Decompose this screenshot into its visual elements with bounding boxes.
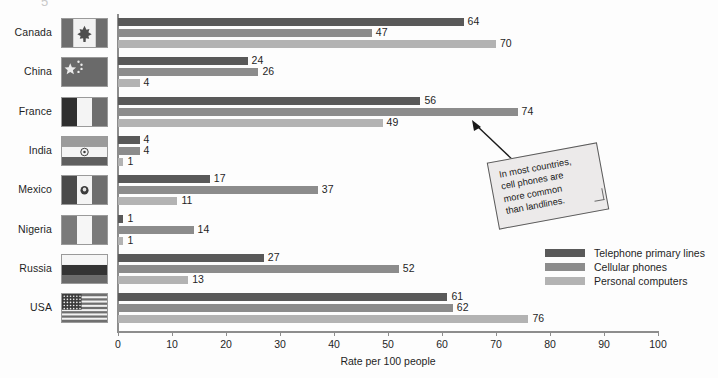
x-tick-70 bbox=[496, 331, 497, 336]
x-tick-label-80: 80 bbox=[544, 338, 556, 350]
bar-value-nigeria-cellular: 14 bbox=[198, 225, 210, 233]
x-tick-60 bbox=[442, 331, 443, 336]
usa-flag bbox=[61, 293, 108, 323]
x-tick-label-60: 60 bbox=[436, 338, 448, 350]
bar-usa-computers bbox=[118, 315, 528, 323]
bar-value-china-computers: 4 bbox=[144, 78, 150, 86]
x-tick-label-70: 70 bbox=[490, 338, 502, 350]
legend-label-cellular: Cellular phones bbox=[594, 261, 667, 273]
bar-russia-telephone bbox=[118, 254, 264, 262]
bar-value-usa-telephone: 61 bbox=[451, 292, 463, 300]
bar-mexico-telephone bbox=[118, 175, 210, 183]
bar-mexico-computers bbox=[118, 197, 177, 205]
legend-label-telephone: Telephone primary lines bbox=[594, 247, 705, 259]
bar-value-canada-telephone: 64 bbox=[468, 17, 480, 25]
china-flag bbox=[61, 57, 108, 87]
canada-flag-image bbox=[62, 19, 107, 47]
legend-swatch-cellular bbox=[545, 263, 585, 271]
x-tick-40 bbox=[334, 331, 335, 336]
bar-china-cellular bbox=[118, 68, 258, 76]
bar-value-mexico-telephone: 17 bbox=[214, 174, 226, 182]
france-flag-image bbox=[62, 98, 107, 126]
bar-france-telephone bbox=[118, 97, 420, 105]
bar-value-china-telephone: 24 bbox=[252, 56, 264, 64]
bar-france-computers bbox=[118, 119, 383, 127]
india-flag-image bbox=[62, 137, 107, 165]
bar-mexico-cellular bbox=[118, 186, 318, 194]
x-tick-30 bbox=[280, 331, 281, 336]
legend-label-computers: Personal computers bbox=[594, 275, 687, 287]
x-tick-label-50: 50 bbox=[382, 338, 394, 350]
canada-flag bbox=[61, 18, 108, 48]
bar-france-cellular bbox=[118, 108, 518, 116]
x-tick-label-20: 20 bbox=[220, 338, 232, 350]
bar-canada-telephone bbox=[118, 18, 464, 26]
bar-value-russia-computers: 13 bbox=[192, 275, 204, 283]
bar-value-china-cellular: 26 bbox=[262, 67, 274, 75]
legend-item-cellular: Cellular phones bbox=[545, 260, 705, 273]
x-tick-20 bbox=[226, 331, 227, 336]
bar-china-computers bbox=[118, 79, 140, 87]
country-label-france: France bbox=[0, 105, 52, 117]
x-tick-50 bbox=[388, 331, 389, 336]
bar-nigeria-cellular bbox=[118, 226, 194, 234]
legend-swatch-computers bbox=[545, 277, 585, 285]
bar-usa-telephone bbox=[118, 293, 447, 301]
bar-value-usa-computers: 76 bbox=[532, 314, 544, 322]
country-label-russia: Russia bbox=[0, 262, 52, 274]
x-tick-label-10: 10 bbox=[166, 338, 178, 350]
x-tick-0 bbox=[118, 331, 119, 336]
bar-india-cellular bbox=[118, 147, 140, 155]
x-tick-label-40: 40 bbox=[328, 338, 340, 350]
x-tick-80 bbox=[550, 331, 551, 336]
country-label-india: India bbox=[0, 144, 52, 156]
bar-value-canada-computers: 70 bbox=[500, 39, 512, 47]
bar-usa-cellular bbox=[118, 304, 453, 312]
country-label-china: China bbox=[0, 65, 52, 77]
x-tick-label-30: 30 bbox=[274, 338, 286, 350]
callout-note: In most countries, cell phones are more … bbox=[487, 142, 610, 229]
bar-value-india-cellular: 4 bbox=[144, 146, 150, 154]
legend-item-telephone: Telephone primary lines bbox=[545, 246, 705, 259]
x-axis-title: Rate per 100 people bbox=[340, 355, 435, 367]
bar-value-mexico-computers: 11 bbox=[181, 196, 192, 204]
legend: Telephone primary lines Cellular phones … bbox=[545, 246, 705, 288]
x-tick-label-0: 0 bbox=[115, 338, 121, 350]
bar-china-telephone bbox=[118, 57, 248, 65]
bar-india-computers bbox=[118, 158, 123, 166]
usa-flag-image bbox=[62, 294, 107, 322]
country-label-nigeria: Nigeria bbox=[0, 223, 52, 235]
x-tick-label-90: 90 bbox=[598, 338, 610, 350]
france-flag bbox=[61, 97, 108, 127]
legend-item-computers: Personal computers bbox=[545, 274, 705, 287]
x-tick-label-100: 100 bbox=[649, 338, 667, 350]
cropped-page-glyph: 5 bbox=[41, 0, 48, 9]
country-label-canada: Canada bbox=[0, 26, 52, 38]
x-tick-10 bbox=[172, 331, 173, 336]
bar-value-france-telephone: 56 bbox=[424, 96, 436, 104]
bar-value-russia-cellular: 52 bbox=[403, 264, 415, 272]
callout-fold-corner bbox=[592, 188, 604, 202]
bar-chart-figure: 5 Canada 644770China 24264France 567449I… bbox=[0, 0, 718, 378]
country-label-usa: USA bbox=[0, 301, 52, 313]
mexico-flag bbox=[61, 175, 108, 205]
bar-value-france-computers: 49 bbox=[387, 118, 399, 126]
x-tick-100 bbox=[658, 331, 659, 336]
russia-flag bbox=[61, 254, 108, 284]
nigeria-flag bbox=[61, 215, 108, 245]
bar-value-canada-cellular: 47 bbox=[376, 28, 388, 36]
callout-note-text: In most countries, cell phones are more … bbox=[498, 152, 598, 218]
bar-russia-computers bbox=[118, 276, 188, 284]
bar-value-india-computers: 1 bbox=[127, 157, 133, 165]
bar-value-mexico-cellular: 37 bbox=[322, 185, 334, 193]
india-flag bbox=[61, 136, 108, 166]
country-label-mexico: Mexico bbox=[0, 183, 52, 195]
bar-canada-cellular bbox=[118, 29, 372, 37]
legend-swatch-telephone bbox=[545, 249, 585, 257]
bar-value-nigeria-computers: 1 bbox=[127, 236, 133, 244]
bar-russia-cellular bbox=[118, 265, 399, 273]
mexico-flag-image bbox=[62, 176, 107, 204]
bar-nigeria-computers bbox=[118, 237, 123, 245]
china-flag-image bbox=[62, 58, 107, 86]
nigeria-flag-image bbox=[62, 216, 107, 244]
